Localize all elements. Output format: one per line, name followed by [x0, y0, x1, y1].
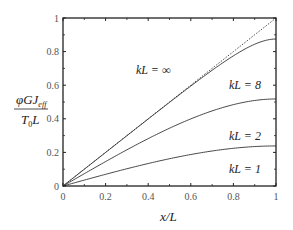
chart: 00.20.40.60.8100.20.40.60.81 kL = ∞ kL =…	[0, 0, 293, 230]
annotation-kl-1: kL = 1	[229, 162, 261, 176]
y-tick-label: 0.4	[47, 113, 60, 124]
annotation-kl-inf-label: kL = ∞	[136, 63, 171, 77]
y-tick-label: 0	[54, 181, 59, 192]
x-tick-label: 0.8	[227, 191, 240, 202]
x-tick-label: 0.6	[185, 191, 198, 202]
y-tick-label: 0.8	[47, 46, 60, 57]
plot-area	[63, 18, 276, 186]
x-tick-label: 1	[274, 191, 279, 202]
y-axis-label: φGJeff T0L	[14, 92, 48, 129]
ylabel-numerator: φGJ	[16, 92, 40, 107]
x-tick-label: 0	[61, 191, 66, 202]
x-tick-label: 0.4	[142, 191, 155, 202]
ylabel-den-tail: L	[31, 112, 39, 127]
svg-text:T0L: T0L	[21, 112, 39, 129]
annotation-kl-8: kL = 8	[229, 78, 261, 92]
x-tick-label: 0.2	[99, 191, 112, 202]
svg-text:φGJeff: φGJeff	[16, 92, 48, 109]
x-axis-label: x/L	[159, 209, 177, 224]
y-tick-label: 0.2	[47, 147, 60, 158]
y-tick-label: 1	[54, 13, 59, 24]
ylabel-subscript: eff	[38, 100, 48, 109]
annotation-kl-2: kL = 2	[229, 129, 261, 143]
y-tick-label: 0.6	[47, 80, 60, 91]
